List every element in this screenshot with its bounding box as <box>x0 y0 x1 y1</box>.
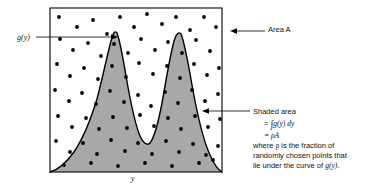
leader-line-area-a <box>230 28 265 34</box>
shaded-area-under-curve <box>50 32 222 172</box>
formula-integrand: g(y) dy <box>273 119 294 128</box>
note-1-post: is the fraction of <box>279 141 334 150</box>
callout-note-line-3: lie under the curve of g(y). <box>253 161 347 171</box>
curve-label-g-of-y: g(y) <box>17 33 30 44</box>
note-3-pre: lie under the curve of <box>253 161 325 170</box>
shaded-area-callout: Shaded area = ∫g(y) dy = ρA where ρ is t… <box>253 107 347 171</box>
callout-note-line-1: where ρ is the fraction of <box>253 141 347 151</box>
leader-line-shaded-area <box>202 108 250 114</box>
callout-title: Shaded area <box>253 107 347 117</box>
callout-note-line-2: randomly chosen points that <box>253 151 347 161</box>
note-3-post: . <box>337 161 339 170</box>
figure-container: g(y) y Area A Shaded area = ∫g(y) dy = ρ… <box>0 0 392 194</box>
callout-formula-integral: = ∫g(y) dy <box>253 117 347 131</box>
formula-rho-a: = ρA <box>264 131 279 140</box>
callout-formula-rho: = ρA <box>253 131 347 141</box>
note-1-pre: where <box>253 141 276 150</box>
axis-label-y: y <box>131 174 135 185</box>
area-a-label: Area A <box>268 25 291 35</box>
note-3-function: g(y) <box>325 161 337 170</box>
